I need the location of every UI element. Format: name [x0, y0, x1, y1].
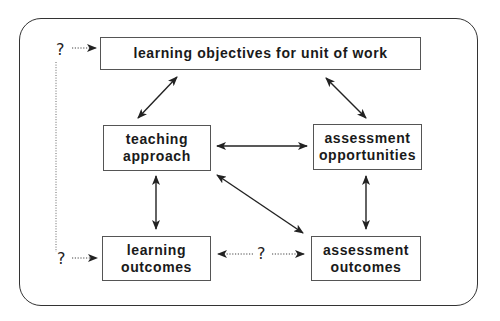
- unknown-mark-top-left: ?: [56, 40, 65, 59]
- node-label-line1: assessment: [324, 130, 410, 147]
- node-assessment-outcomes: assessment outcomes: [311, 236, 421, 281]
- node-learning-objectives: learning objectives for unit of work: [100, 37, 421, 70]
- node-label-line1: learning: [127, 242, 186, 259]
- node-label-line2: outcomes: [331, 259, 402, 276]
- node-label: learning objectives for unit of work: [133, 45, 387, 62]
- node-teaching-approach: teaching approach: [103, 125, 211, 171]
- node-assessment-opportunities: assessment opportunities: [313, 124, 422, 170]
- unknown-mark-middle: ?: [257, 244, 266, 263]
- node-label-line1: assessment: [323, 242, 409, 259]
- node-learning-outcomes: learning outcomes: [102, 236, 211, 281]
- node-label-line2: outcomes: [121, 259, 192, 276]
- arrow-objectives-assessment-opportunities: [326, 78, 366, 118]
- planning-diagram: learning objectives for unit of work tea…: [0, 0, 500, 321]
- arrow-objectives-teaching: [138, 77, 177, 118]
- node-label-line2: approach: [123, 148, 191, 165]
- arrow-teaching-assessment-outcomes: [217, 175, 303, 233]
- node-label-line1: teaching: [126, 131, 188, 148]
- node-label-line2: opportunities: [319, 147, 416, 164]
- unknown-mark-bottom-left: ?: [57, 249, 66, 268]
